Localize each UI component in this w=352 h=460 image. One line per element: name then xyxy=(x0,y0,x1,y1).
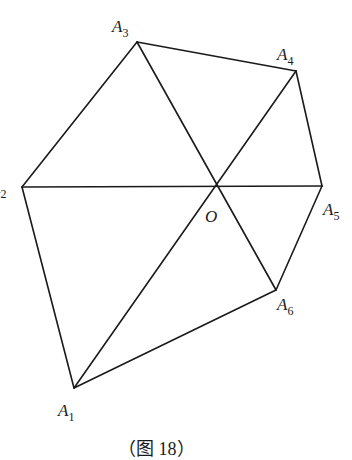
diagonal-a1-a4 xyxy=(74,71,296,388)
label-a5: A5 xyxy=(322,200,339,223)
label-a2: A2 xyxy=(0,178,6,201)
edge-a2-a3 xyxy=(22,42,137,187)
label-a3: A3 xyxy=(111,17,128,40)
edge-a4-a5 xyxy=(296,71,322,186)
diagonal-a3-a6 xyxy=(137,42,276,290)
label-a4: A4 xyxy=(276,45,293,68)
edge-a1-a2 xyxy=(22,187,74,388)
hexagon-diagram: A3 A4 A2 O A5 A6 A1 （图 18） xyxy=(0,0,352,460)
diagonal-a2-a5 xyxy=(22,186,322,187)
edge-a5-a6 xyxy=(276,186,322,290)
figure-caption: （图 18） xyxy=(118,439,195,459)
diagonals xyxy=(22,42,322,388)
polygon-edges xyxy=(22,42,322,388)
edge-a6-a1 xyxy=(74,290,276,388)
edge-a3-a4 xyxy=(137,42,296,71)
label-a6: A6 xyxy=(276,295,293,318)
label-a1: A1 xyxy=(57,401,74,424)
label-o: O xyxy=(205,207,217,226)
